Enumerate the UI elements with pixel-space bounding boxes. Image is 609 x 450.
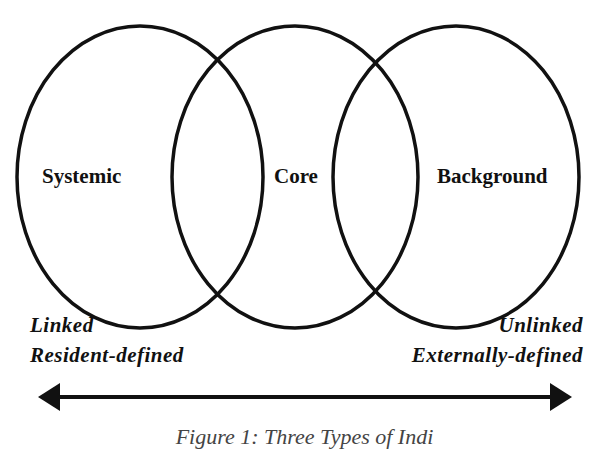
label-core: Core — [274, 164, 318, 189]
figure-caption: Figure 1: Three Types of Indi — [0, 424, 609, 450]
label-resident-defined: Resident-defined — [30, 340, 184, 370]
left-axis-labels: Linked Resident-defined — [30, 310, 184, 370]
right-axis-labels: Unlinked Externally-defined — [412, 310, 583, 370]
label-background: Background — [437, 164, 548, 189]
label-systemic: Systemic — [42, 164, 121, 189]
label-linked: Linked — [30, 310, 184, 340]
label-externally-defined: Externally-defined — [412, 340, 583, 370]
label-unlinked: Unlinked — [412, 310, 583, 340]
bidirectional-arrow — [38, 383, 572, 411]
